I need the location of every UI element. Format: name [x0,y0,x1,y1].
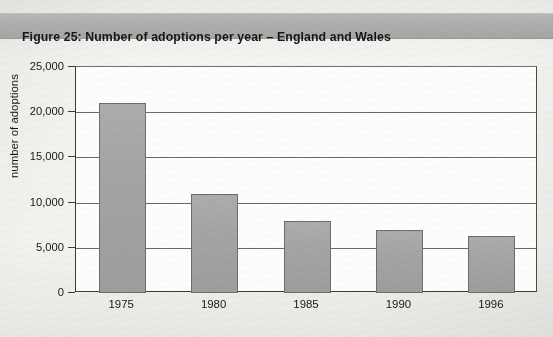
y-axis-tick-mark [68,292,75,293]
bar [376,230,423,293]
y-axis-title: number of adoptions [8,74,20,178]
y-axis-tick-mark [68,247,75,248]
bar [99,103,146,293]
bar-chart: number of adoptions 05,00010,00015,00020… [0,0,553,337]
bar [191,194,238,293]
y-axis-tick-label: 5,000 [36,241,64,253]
y-axis-tick-mark [68,202,75,203]
x-axis-tick-label: 1990 [358,298,438,310]
x-axis-tick-label: 1985 [266,298,346,310]
y-axis-tick-mark [68,156,75,157]
y-axis-tick-label: 20,000 [30,105,64,117]
x-axis-tick-label: 1980 [174,298,254,310]
x-axis-tick-label: 1996 [451,298,531,310]
y-axis-tick-mark [68,66,75,67]
y-axis-tick-label: 10,000 [30,196,64,208]
x-axis-tick-label: 1975 [81,298,161,310]
y-axis-tick-label: 25,000 [30,60,64,72]
bar [284,221,331,293]
bar [468,236,515,293]
y-axis-tick-mark [68,111,75,112]
plot-area [75,66,537,292]
y-axis-tick-label: 15,000 [30,150,64,162]
y-axis-tick-label: 0 [58,286,64,298]
